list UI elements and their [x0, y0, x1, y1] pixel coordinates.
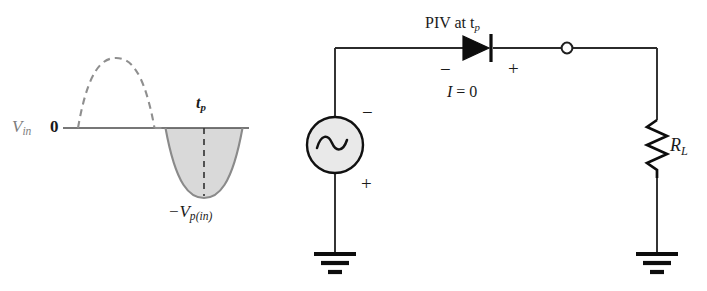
waveform-axis-label: Vin	[12, 118, 31, 138]
waveform-peak-label: −Vp(in)	[168, 203, 212, 223]
open-node-circle	[562, 43, 573, 54]
load-resistor-zigzag	[647, 120, 667, 178]
diode-plus-sign: +	[508, 59, 519, 78]
waveform-group	[63, 58, 249, 198]
circuit-waveform-svg	[0, 0, 707, 291]
waveform-positive-halfcycle	[78, 58, 155, 128]
waveform-time-marker-label: tp	[196, 95, 206, 113]
diode-piv-label: PIV at tp	[425, 15, 480, 33]
ac-source-circle	[307, 117, 363, 173]
figure-root: Vin 0 tp −Vp(in) PIV at tp − + I = 0 − +…	[0, 0, 707, 291]
diode-minus-sign: −	[440, 60, 451, 79]
source-minus-sign: −	[362, 103, 373, 122]
ground-load-symbol	[636, 254, 678, 272]
diode-current-label: I = 0	[447, 84, 477, 100]
ground-source-symbol	[314, 254, 356, 272]
source-plus-sign: +	[361, 174, 372, 193]
diode-triangle	[463, 36, 489, 60]
load-resistor-label: RL	[670, 136, 688, 157]
waveform-zero-label: 0	[50, 118, 59, 135]
circuit-group	[307, 34, 678, 272]
